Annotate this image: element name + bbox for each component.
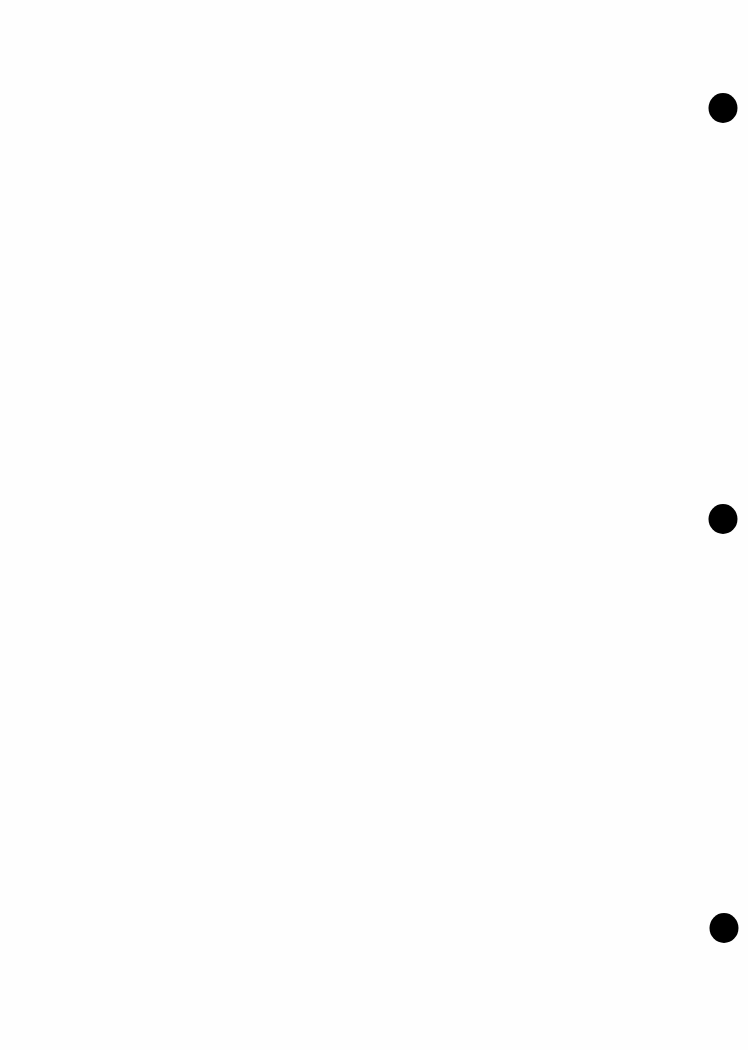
page-content-area: [0, 0, 690, 1050]
punch-hole-middle: [709, 504, 738, 534]
punch-hole-top: [709, 93, 738, 123]
punch-hole-bottom: [710, 913, 739, 943]
scanned-blank-page: [0, 0, 748, 1050]
